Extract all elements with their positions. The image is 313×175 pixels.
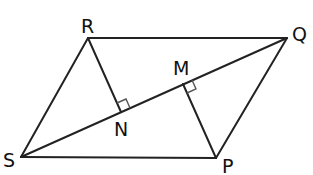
label-s: S [3,149,15,171]
side-pq [216,38,287,158]
label-q: Q [292,23,307,45]
label-p: P [222,155,233,175]
label-n: N [114,118,128,140]
label-m: M [173,57,189,79]
geometry-diagram: R Q S P N M [0,0,313,175]
label-r: R [81,15,94,37]
perpendicular-rn [88,38,121,112]
side-sp [21,157,216,158]
perpendicular-pm [183,84,216,158]
side-rs [21,38,88,157]
diagonal-sq [21,38,287,157]
